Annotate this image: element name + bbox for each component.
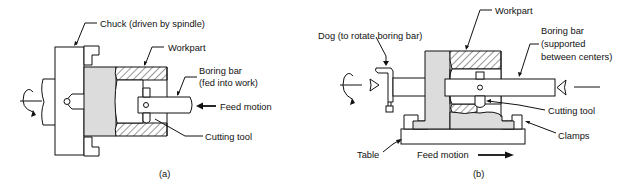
workpart-label-a: Workpart: [168, 43, 206, 53]
boring-bar-a: [138, 88, 192, 113]
rotation-arrow-icon: [20, 89, 42, 117]
feed-motion-label-b: Feed motion: [417, 150, 469, 160]
cutting-tool-b: [475, 96, 485, 108]
right-center: [557, 80, 600, 95]
table: [401, 129, 525, 144]
boring-bar-label-b: Boring bar: [541, 26, 584, 36]
spindle-shaft: [42, 79, 56, 125]
table-label: Table: [357, 150, 379, 160]
caption-a: (a): [159, 169, 170, 179]
workpart-label-b: Workpart: [495, 6, 533, 16]
dog-label: Dog (to rotate boring bar): [318, 31, 422, 41]
dog: [375, 68, 393, 112]
diagram-b: Dog (to rotate boring bar) Workpart Bori…: [318, 6, 612, 179]
boring-bar-sublabel-b1: (supported: [541, 39, 585, 49]
cutting-tool-label-b: Cutting tool: [548, 106, 595, 116]
boring-bar-sublabel-b2: between centers): [541, 52, 612, 62]
boring-bar-label-a: Boring bar: [199, 66, 242, 76]
feed-arrow-a-icon: [196, 103, 216, 110]
left-center: [370, 79, 379, 91]
cutting-tool-a: [143, 113, 150, 123]
chuck-label: Chuck (driven by spindle): [100, 19, 205, 29]
cutting-tool-label-a: Cutting tool: [205, 132, 252, 142]
rotation-arrow-b-icon: [340, 73, 362, 105]
boring-bar-sublabel-a: (fed into work): [199, 78, 258, 88]
caption-b: (b): [473, 169, 484, 179]
feed-motion-label-a: Feed motion: [220, 102, 272, 112]
feed-arrow-b-icon: [478, 152, 514, 159]
boring-diagrams: Chuck (driven by spindle) Workpart Borin…: [0, 0, 640, 190]
clamps-label: Clamps: [558, 131, 590, 141]
diagram-a: Chuck (driven by spindle) Workpart Borin…: [20, 19, 272, 179]
